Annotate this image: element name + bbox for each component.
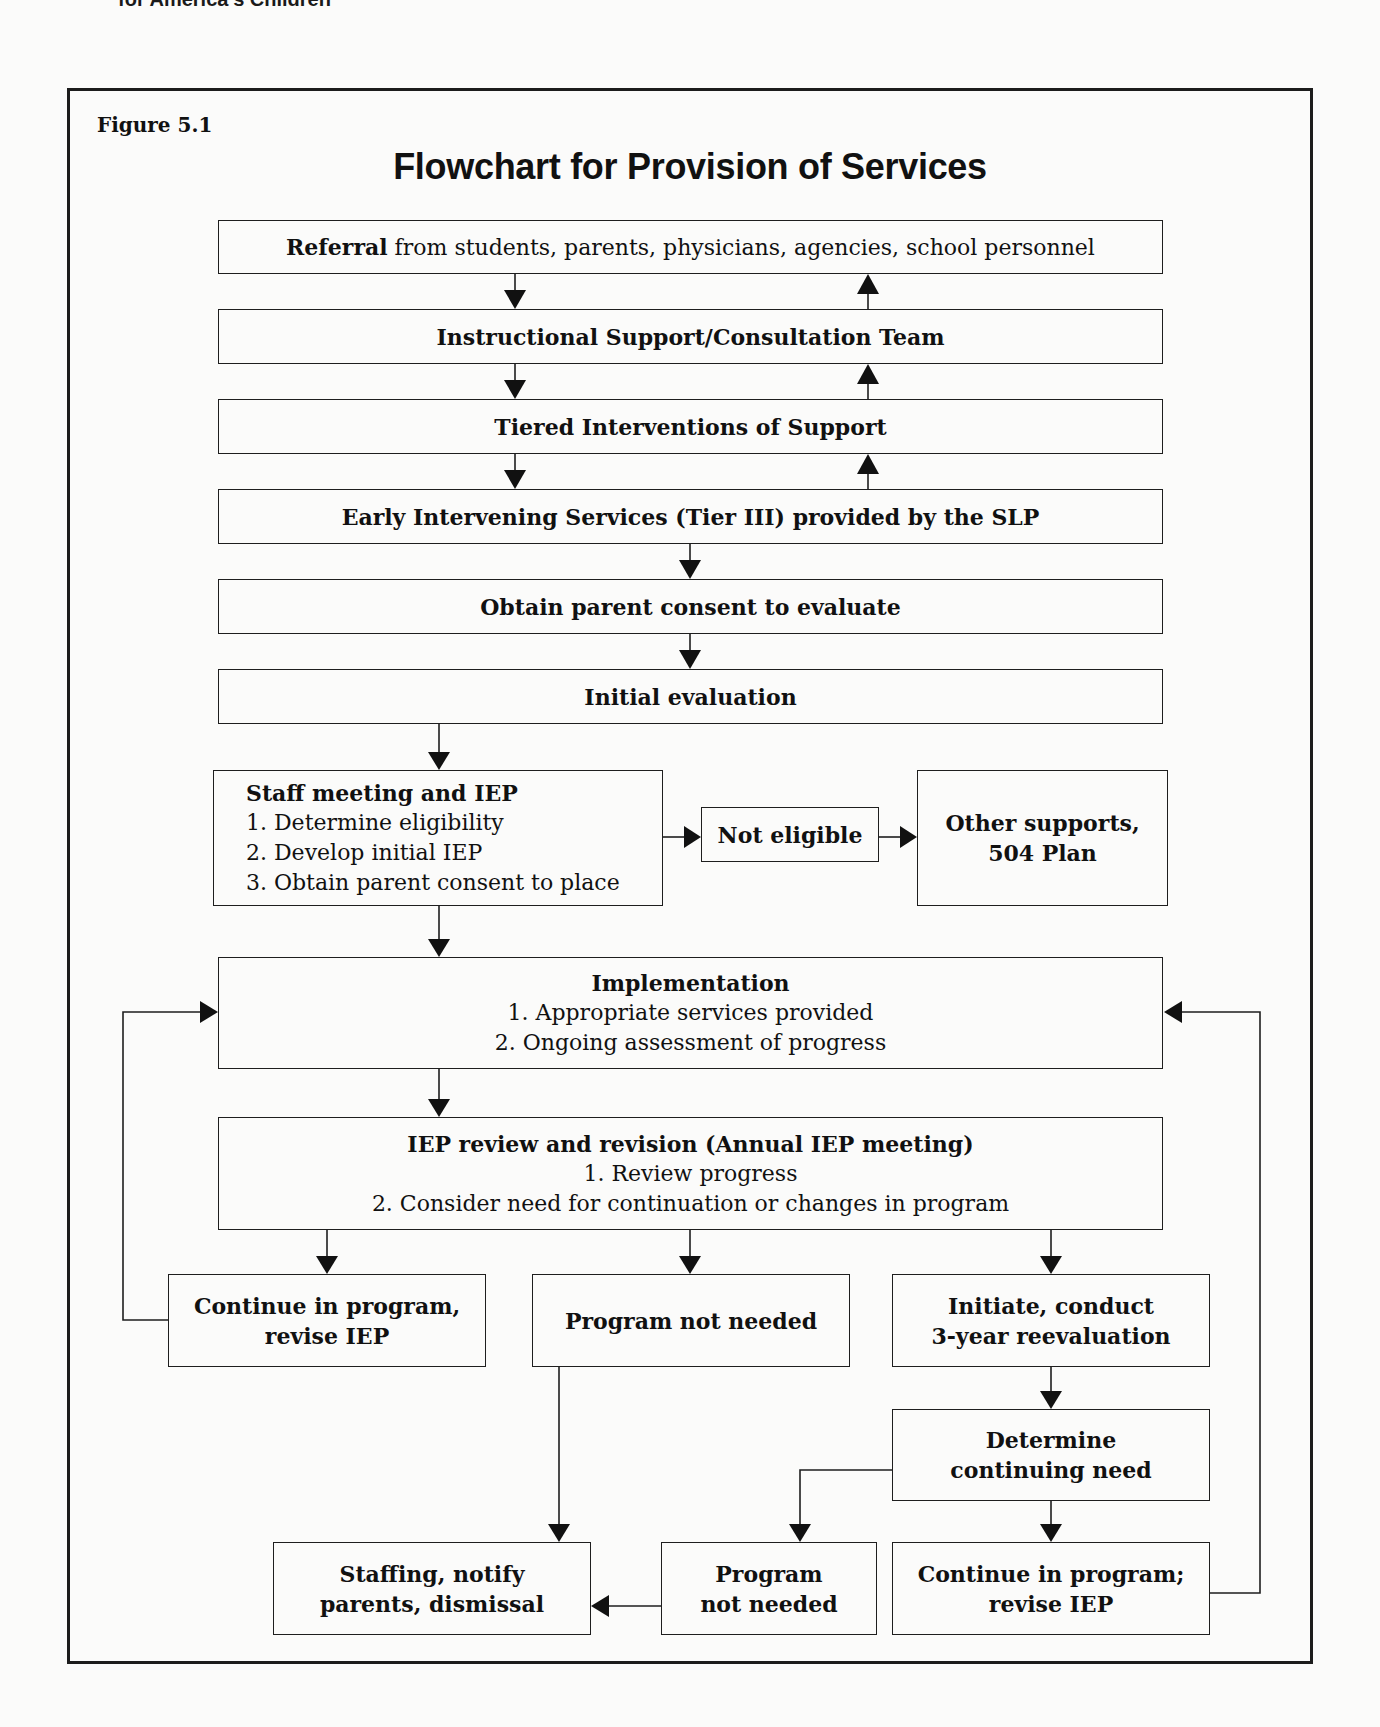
tiered-interventions-title: Tiered Interventions of Support [494,412,886,442]
initial-evaluation-title: Initial evaluation [584,682,796,712]
not-eligible-title: Not eligible [718,820,863,850]
implementation-item-1: 1. Appropriate services provided [508,998,874,1028]
node-determine-need: Determine continuing need [892,1409,1210,1501]
node-implementation: Implementation 1. Appropriate services p… [218,957,1163,1069]
iep-review-item-1: 1. Review progress [584,1159,798,1189]
node-instructional-support: Instructional Support/Consultation Team [218,309,1163,364]
parent-consent-title: Obtain parent consent to evaluate [480,592,901,622]
staff-meeting-item-1: 1. Determine eligibility [246,808,504,838]
node-other-supports: Other supports, 504 Plan [917,770,1168,906]
node-tiered-interventions: Tiered Interventions of Support [218,399,1163,454]
implementation-title: Implementation [591,968,789,998]
referral-text: from students, parents, physicians, agen… [388,235,1095,260]
implementation-item-2: 2. Ongoing assessment of progress [495,1028,886,1058]
other-supports-line-2: 504 Plan [988,838,1097,868]
reevaluation-line-1: Initiate, conduct [948,1291,1154,1321]
program-not-needed-2-line-1: Program [715,1559,822,1589]
node-parent-consent: Obtain parent consent to evaluate [218,579,1163,634]
continue-revise-line-2: revise IEP [265,1321,389,1351]
figure-label: Figure 5.1 [97,113,212,137]
node-program-not-needed-2: Program not needed [661,1542,877,1635]
program-not-needed-1-title: Program not needed [565,1306,817,1336]
early-intervening-title: Early Intervening Services (Tier III) pr… [342,502,1040,532]
referral-bold-label: Referral [286,234,388,260]
continue-revise-2-line-1: Continue in program; [918,1559,1185,1589]
staff-meeting-item-3: 3. Obtain parent consent to place [246,868,620,898]
node-not-eligible: Not eligible [701,807,879,862]
instructional-support-title: Instructional Support/Consultation Team [437,322,945,352]
staff-meeting-item-2: 2. Develop initial IEP [246,838,482,868]
staffing-dismissal-line-1: Staffing, notify [340,1559,525,1589]
node-initial-evaluation: Initial evaluation [218,669,1163,724]
continue-revise-2-line-2: revise IEP [989,1589,1113,1619]
running-head: for America's Children [118,0,331,11]
continue-revise-line-1: Continue in program, [194,1291,460,1321]
node-early-intervening: Early Intervening Services (Tier III) pr… [218,489,1163,544]
iep-review-item-2: 2. Consider need for continuation or cha… [372,1189,1009,1219]
program-not-needed-2-line-2: not needed [700,1589,837,1619]
determine-need-line-2: continuing need [950,1455,1151,1485]
node-staffing-dismissal: Staffing, notify parents, dismissal [273,1542,591,1635]
node-continue-revise: Continue in program, revise IEP [168,1274,486,1367]
staff-meeting-title: Staff meeting and IEP [246,778,518,808]
node-continue-revise-2: Continue in program; revise IEP [892,1542,1210,1635]
staffing-dismissal-line-2: parents, dismissal [320,1589,544,1619]
reevaluation-line-2: 3-year reevaluation [931,1321,1170,1351]
other-supports-line-1: Other supports, [945,808,1139,838]
node-referral: Referral from students, parents, physici… [218,220,1163,274]
iep-review-title: IEP review and revision (Annual IEP meet… [407,1129,973,1159]
chart-title: Flowchart for Provision of Services [200,146,1180,188]
node-staff-meeting: Staff meeting and IEP 1. Determine eligi… [213,770,663,906]
node-iep-review: IEP review and revision (Annual IEP meet… [218,1117,1163,1230]
node-reevaluation: Initiate, conduct 3-year reevaluation [892,1274,1210,1367]
determine-need-line-1: Determine [986,1425,1116,1455]
node-program-not-needed-1: Program not needed [532,1274,850,1367]
